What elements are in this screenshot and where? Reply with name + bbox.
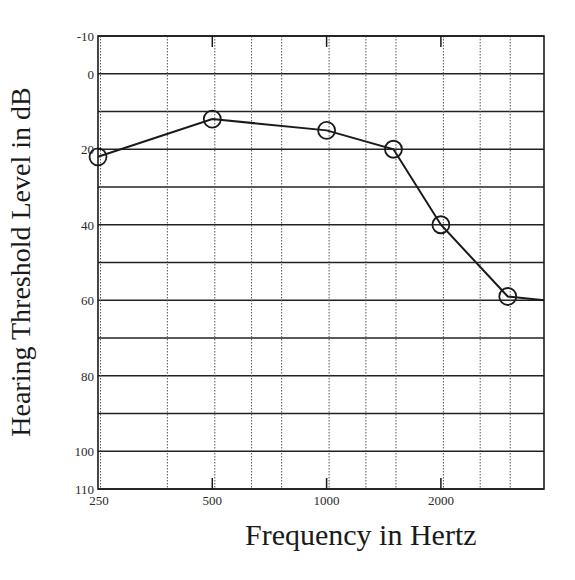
x-tick-label: 500 xyxy=(203,493,223,508)
data-point-markers xyxy=(90,111,517,305)
y-axis-label: Hearing Threshold Level in dB xyxy=(5,87,36,436)
y-tick-label: 40 xyxy=(81,218,94,233)
x-axis-label: Frequency in Hertz xyxy=(245,518,477,551)
x-axis-tick-labels: 25050010002000 xyxy=(89,493,454,508)
threshold-line xyxy=(98,119,544,300)
x-tick-label: 1000 xyxy=(314,493,340,508)
y-tick-label: 60 xyxy=(81,293,94,308)
y-tick-label: -10 xyxy=(77,29,94,44)
x-tick-label: 2000 xyxy=(428,493,454,508)
audiogram-chart: -10020406080100110 25050010002000 Hearin… xyxy=(0,0,575,580)
y-tick-label: 80 xyxy=(81,369,94,384)
x-tick-label: 250 xyxy=(89,493,109,508)
y-axis-tick-labels: -10020406080100110 xyxy=(75,29,95,497)
y-tick-label: 0 xyxy=(88,67,95,82)
y-tick-label: 100 xyxy=(75,444,95,459)
